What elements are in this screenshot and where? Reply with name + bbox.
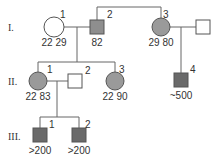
individual-values: 22 29: [41, 37, 66, 48]
individual-ii1: 1 22 83: [25, 64, 53, 102]
generation-label-2: II.: [8, 76, 17, 87]
pedigree-diagram: I. II. III. 1 22 29 2 82 3 29 80: [0, 0, 216, 161]
generation-label-3: III.: [8, 131, 21, 142]
individual-number: 3: [119, 64, 125, 75]
individual-number: 1: [49, 119, 55, 130]
individual-number: 2: [85, 119, 91, 130]
individual-values: 22 90: [102, 91, 127, 102]
male-affected-symbol: [90, 20, 104, 34]
individual-number: 1: [47, 64, 53, 75]
female-affected-symbol: [152, 18, 170, 36]
individual-iii1: 1 >200: [29, 119, 55, 156]
male-affected-symbol: [174, 73, 188, 87]
female-unaffected-symbol: [44, 17, 64, 37]
individual-values: 22 83: [25, 91, 50, 102]
male-affected-symbol: [72, 128, 86, 142]
individual-number: 1: [60, 9, 66, 20]
male-unaffected-symbol: [68, 74, 82, 88]
generation-label-1: I.: [8, 22, 14, 33]
individual-values: >200: [29, 145, 52, 156]
individual-ii4: 4 ~500: [170, 64, 196, 101]
female-affected-symbol: [29, 72, 47, 90]
male-affected-symbol: [33, 128, 47, 142]
individual-number: 2: [107, 9, 113, 20]
individual-number: 2: [85, 65, 91, 76]
sibship-line-iii: [40, 117, 79, 128]
individual-i1: 1 22 29: [41, 9, 66, 48]
individual-number: 3: [163, 9, 169, 20]
individual-i2: 2 82: [90, 9, 113, 48]
individual-values: >200: [68, 145, 91, 156]
individual-ii2: 2: [68, 65, 91, 88]
individual-values: ~500: [170, 90, 193, 101]
male-unaffected-symbol: [196, 20, 210, 34]
individual-values: 29 80: [148, 37, 173, 48]
individual-values: 82: [91, 37, 103, 48]
individual-i3-spouse: [196, 20, 210, 34]
individual-number: 4: [190, 64, 196, 75]
